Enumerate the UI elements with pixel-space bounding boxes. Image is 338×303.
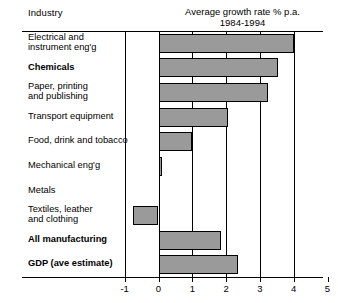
- x-tick-label-0: 0: [147, 283, 171, 294]
- x-tick-label-3: 3: [248, 283, 272, 294]
- bar: [159, 255, 238, 274]
- bar: [159, 83, 269, 102]
- row-label: All manufacturing: [28, 234, 107, 245]
- label-column-divider: [125, 31, 126, 277]
- chart-title-line1: Average growth rate % p.a.: [185, 6, 300, 17]
- row-label: Food, drink and tobacco: [28, 135, 128, 146]
- bar: [159, 58, 279, 77]
- row-label: Transport equipment: [28, 111, 113, 122]
- bar: [159, 157, 162, 176]
- industry-column-header: Industry: [28, 7, 63, 18]
- x-tick-1: [192, 277, 193, 282]
- x-tick-label--1: -1: [113, 283, 137, 294]
- x-tick-3: [260, 277, 261, 282]
- x-tick-label-4: 4: [282, 283, 306, 294]
- chart-title-line2: 1984-1994: [150, 17, 335, 28]
- row-label: Electrical and instrument eng'g: [28, 32, 96, 53]
- x-tick-4: [294, 277, 295, 282]
- x-tick-label-2: 2: [214, 283, 238, 294]
- row-label: Textiles, leather and clothing: [28, 204, 93, 225]
- bar: [159, 108, 228, 127]
- x-tick-0: [159, 277, 160, 282]
- row-label: Chemicals: [28, 62, 75, 73]
- x-tick-2: [226, 277, 227, 282]
- bar-chart: Industry Average growth rate % p.a. 1984…: [0, 0, 338, 303]
- bar: [159, 231, 222, 250]
- row-label: Paper, printing and publishing: [28, 81, 88, 102]
- row-label: GDP (ave estimate): [28, 258, 113, 269]
- bar: [159, 34, 294, 53]
- gridline-4: [294, 31, 295, 277]
- x-axis-line: [22, 277, 323, 278]
- x-tick-label-1: 1: [180, 283, 204, 294]
- chart-title: Average growth rate % p.a. 1984-1994: [150, 6, 335, 28]
- bar: [159, 132, 193, 151]
- row-label: Mechanical eng'g: [28, 160, 100, 171]
- x-tick--1: [125, 277, 126, 282]
- x-tick-label-5: 5: [316, 283, 338, 294]
- bar: [133, 206, 158, 225]
- x-tick-5: [328, 277, 329, 282]
- row-label: Metals: [28, 185, 55, 196]
